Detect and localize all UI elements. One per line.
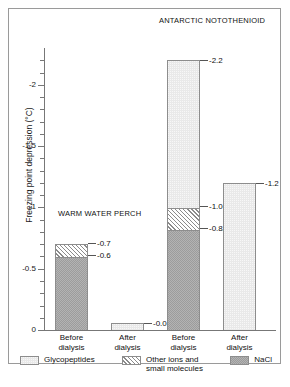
y-tick-label-0: 0: [32, 326, 36, 334]
x-tick-label-0: Before dialysis: [47, 333, 96, 352]
bar-perch-before: [55, 244, 88, 330]
y-axis-title: Freezing point depression (°C): [24, 90, 34, 240]
bar-segment-other-ions: [56, 245, 87, 257]
x-axis-line: [44, 330, 276, 331]
legend-item-glycopeptides: Glycopeptides: [20, 355, 95, 365]
y-tick-major-0: [38, 330, 44, 331]
x-tick-line2: dialysis: [159, 343, 208, 353]
legend-swatch-nacl-icon: [230, 356, 249, 365]
y-tick-minor: [40, 293, 44, 294]
legend-item-nacl: NaCl: [230, 355, 272, 365]
y-tick-minor: [40, 318, 44, 319]
legend-label-other-ions: Other ions and small molecules: [146, 355, 203, 373]
y-tick-label-0_5: -0.5: [22, 265, 36, 273]
x-tick-line2: dialysis: [103, 343, 152, 353]
bar-nototheniod-after: [223, 183, 256, 330]
y-tick-minor: [40, 306, 44, 307]
x-tick-line2: dialysis: [215, 343, 264, 353]
value-label-perch-before-nacl: -0.6: [88, 252, 111, 260]
x-tick-line1: After: [215, 333, 264, 343]
x-tick-line1: After: [103, 333, 152, 343]
legend-item-other-ions: Other ions and small molecules: [122, 355, 203, 373]
y-tick-major-2: [38, 85, 44, 86]
figure: -2 -1.5 -1 -0.5 0 Freezing point depress…: [0, 0, 290, 387]
y-tick-minor: [40, 60, 44, 61]
leader-line: [200, 60, 208, 61]
legend-label-glycopeptides: Glycopeptides: [44, 355, 95, 364]
x-tick-label-1: After dialysis: [103, 333, 152, 352]
leader-line: [144, 323, 152, 324]
group-title-nototheniod: ANTARCTIC NOTOTHENIOID: [159, 16, 265, 25]
value-label-nototheniod-before-glyco-base: -1.0: [200, 203, 223, 211]
y-tick-minor: [40, 232, 44, 233]
bar-segment-nacl: [56, 257, 87, 330]
y-tick-minor: [40, 207, 44, 208]
bar-segment-nacl: [168, 230, 199, 330]
y-tick-minor: [40, 73, 44, 74]
legend: Glycopeptides Other ions and small molec…: [20, 355, 272, 379]
x-tick-line1: Before: [47, 333, 96, 343]
y-tick-minor: [40, 158, 44, 159]
value-label-nototheniod-after-total: -1.2: [256, 180, 279, 188]
y-tick-minor: [40, 122, 44, 123]
x-tick-line1: Before: [159, 333, 208, 343]
x-tick-label-2: Before dialysis: [159, 333, 208, 352]
bar-segment-glycopeptides: [168, 61, 199, 208]
y-tick-minor: [40, 195, 44, 196]
value-label-perch-before-total: -0.7: [88, 240, 111, 248]
y-tick-minor: [40, 109, 44, 110]
bar-segment-other-ions: [168, 208, 199, 230]
y-tick-minor: [40, 183, 44, 184]
y-tick-label-2: -2: [29, 81, 36, 89]
y-axis-line: [44, 48, 45, 331]
x-tick-label-3: After dialysis: [215, 333, 264, 352]
legend-swatch-other-ions-icon: [122, 356, 141, 365]
y-tick-minor: [40, 134, 44, 135]
leader-line: [200, 228, 208, 229]
y-tick-major-1_5: [38, 146, 44, 147]
legend-label-nacl: NaCl: [254, 355, 272, 364]
leader-line: [256, 183, 264, 184]
legend-swatch-glycopeptides-icon: [20, 356, 39, 365]
y-tick-minor: [40, 220, 44, 221]
y-tick-minor: [40, 97, 44, 98]
leader-line: [88, 255, 96, 256]
y-tick-minor: [40, 244, 44, 245]
bar-perch-after: [111, 323, 144, 330]
value-label-nototheniod-before-total: -2.2: [200, 57, 223, 65]
y-tick-minor: [40, 171, 44, 172]
x-tick-line2: dialysis: [47, 343, 96, 353]
bar-nototheniod-before: [167, 60, 200, 330]
leader-line: [88, 243, 96, 244]
group-title-perch: WARM WATER PERCH: [58, 209, 141, 218]
y-tick-major-0_5: [38, 269, 44, 270]
leader-line: [200, 206, 208, 207]
y-tick-minor: [40, 256, 44, 257]
y-tick-minor: [40, 281, 44, 282]
